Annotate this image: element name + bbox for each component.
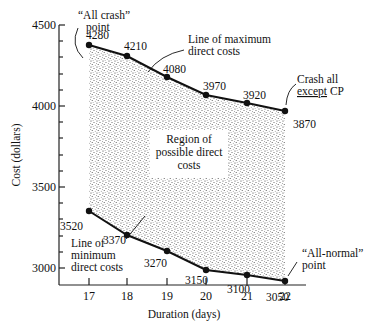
y-tick-3500: 3500 — [32, 180, 56, 194]
y-tick-3000: 3000 — [32, 261, 56, 275]
annotation-all-crash-line1: “All crash” — [78, 9, 130, 21]
region-label-3: costs — [178, 159, 202, 171]
min-value-19: 3270 — [144, 257, 167, 269]
x-axis-title: Duration (days) — [148, 308, 221, 321]
min-value-18: 3370 — [103, 234, 126, 246]
y-axis-title: Cost (dollars) — [10, 123, 23, 186]
y-tick-4000: 4000 — [32, 99, 56, 113]
max-value-19: 4080 — [163, 63, 186, 75]
max-value-22: 3870 — [293, 118, 316, 130]
max-value-21: 3920 — [243, 89, 266, 101]
min-value-21: 3100 — [227, 283, 250, 295]
annotation-crash-except-2: except CP — [297, 85, 344, 98]
x-tick-17: 17 — [83, 289, 95, 303]
annotation-crash-except-underlined: except — [297, 85, 328, 98]
annotation-all-normal-2: point — [302, 259, 326, 272]
x-tick-18: 18 — [121, 289, 133, 303]
annotation-max-line-1: Line of maximum — [188, 33, 271, 45]
arrow-crash-except — [286, 84, 296, 105]
annotation-crash-except-1: Crash all — [297, 73, 338, 85]
annotation-max-line-2: direct costs — [188, 45, 241, 57]
arrow-all-normal — [288, 262, 297, 276]
x-tick-20: 20 — [200, 289, 212, 303]
annotation-all-crash-line2: point — [86, 21, 110, 34]
max-value-18: 4210 — [124, 40, 147, 52]
annotation-min-line-3: direct costs — [71, 261, 124, 273]
annotation-min-line-2: minimum — [71, 249, 116, 261]
max-value-20: 3970 — [203, 80, 226, 92]
region-label-2: possible direct — [156, 146, 224, 159]
y-axis — [59, 25, 65, 285]
min-value-22: 3050 — [266, 291, 289, 303]
x-tick-19: 19 — [161, 289, 173, 303]
y-tick-4500: 4500 — [32, 18, 56, 32]
annotation-min-line-1: Line of — [71, 237, 105, 249]
annotation-crash-except-cp: CP — [327, 85, 344, 97]
annotation-all-normal-1: “All-normal” — [302, 247, 363, 259]
region-label-1: Region of — [166, 133, 212, 146]
chart-canvas: 4500 4000 3500 3000 17 18 19 20 21 22 Du… — [0, 0, 372, 330]
min-value-17: 3520 — [60, 220, 83, 232]
min-value-20: 3150 — [185, 274, 208, 286]
arrow-all-crash — [75, 28, 83, 58]
